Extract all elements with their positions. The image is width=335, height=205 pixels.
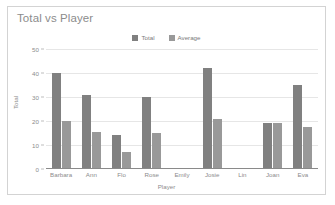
y-tick-label: 20 [32,118,39,125]
y-tick-mark [41,49,44,50]
bar-total-barbara[interactable] [52,73,61,169]
bar-group [288,49,318,169]
bar-group [197,49,227,169]
bar-average-barbara[interactable] [62,121,71,169]
bar-average-flo[interactable] [122,152,131,169]
y-axis-title: Total [12,96,19,109]
x-tick-label-joan: Joan [258,171,288,178]
bar-average-rose[interactable] [152,133,161,169]
bar-group [76,49,106,169]
bar-total-rose[interactable] [142,97,151,169]
plot-area [46,49,318,169]
bar-groups [46,49,318,169]
chart-card: Total vs Player Total Average 5040302010… [7,6,326,195]
y-tick-label: 10 [32,142,39,149]
bar-average-joan[interactable] [273,123,282,169]
y-tick-mark [41,97,44,98]
bar-total-eva[interactable] [293,85,302,169]
y-tick-label: 40 [32,70,39,77]
bar-average-eva[interactable] [303,127,312,169]
bar-group [137,49,167,169]
legend-item-average[interactable]: Average [169,34,201,41]
bar-group [227,49,257,169]
legend-item-total[interactable]: Total [132,34,154,41]
bar-total-ann[interactable] [82,95,91,169]
y-tick-mark [41,73,44,74]
bar-group [258,49,288,169]
chart-legend: Total Average [8,34,325,41]
bar-average-ann[interactable] [92,132,101,169]
bar-group [46,49,76,169]
bar-group [106,49,136,169]
x-tick-label-rose: Rose [137,171,167,178]
x-tick-label-ann: Ann [76,171,106,178]
y-tick-mark [41,145,44,146]
y-axis-ticks: 50403020100 [8,49,44,169]
bar-total-josie[interactable] [203,68,212,169]
x-tick-label-emily: Emily [167,171,197,178]
y-tick-mark [41,121,44,122]
y-tick-label: 50 [32,46,39,53]
bar-group [167,49,197,169]
x-tick-label-flo: Flo [106,171,136,178]
x-tick-label-lin: Lin [227,171,257,178]
legend-swatch-average [169,35,175,41]
x-axis-title: Player [8,183,325,190]
x-axis-tick-labels: BarbaraAnnFloRoseEmilyJosieLinJoanEva [46,171,318,178]
y-tick-mark [41,169,44,170]
bar-total-joan[interactable] [263,123,272,169]
legend-label-average: Average [178,34,201,41]
x-tick-label-barbara: Barbara [46,171,76,178]
x-axis-line [46,168,318,169]
y-tick-label: 0 [36,166,39,173]
legend-swatch-total [132,35,138,41]
chart-title: Total vs Player [17,12,93,24]
x-tick-label-josie: Josie [197,171,227,178]
legend-label-total: Total [141,34,154,41]
bar-average-josie[interactable] [213,119,222,169]
bar-total-flo[interactable] [112,135,121,169]
x-tick-label-eva: Eva [288,171,318,178]
y-tick-label: 30 [32,94,39,101]
